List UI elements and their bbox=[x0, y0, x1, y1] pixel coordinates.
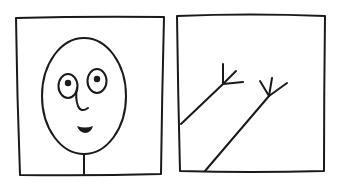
right-pupil bbox=[94, 76, 100, 82]
panel-frame bbox=[177, 15, 325, 173]
head-outline bbox=[42, 38, 126, 154]
comic-strip bbox=[0, 0, 342, 189]
branches-panel bbox=[177, 15, 325, 173]
panel-frame bbox=[16, 17, 164, 176]
nose bbox=[76, 88, 88, 110]
smile bbox=[77, 126, 93, 133]
face-panel bbox=[16, 17, 164, 176]
branch-2 bbox=[205, 78, 287, 171]
left-pupil bbox=[65, 80, 71, 86]
branch-1 bbox=[181, 64, 243, 124]
